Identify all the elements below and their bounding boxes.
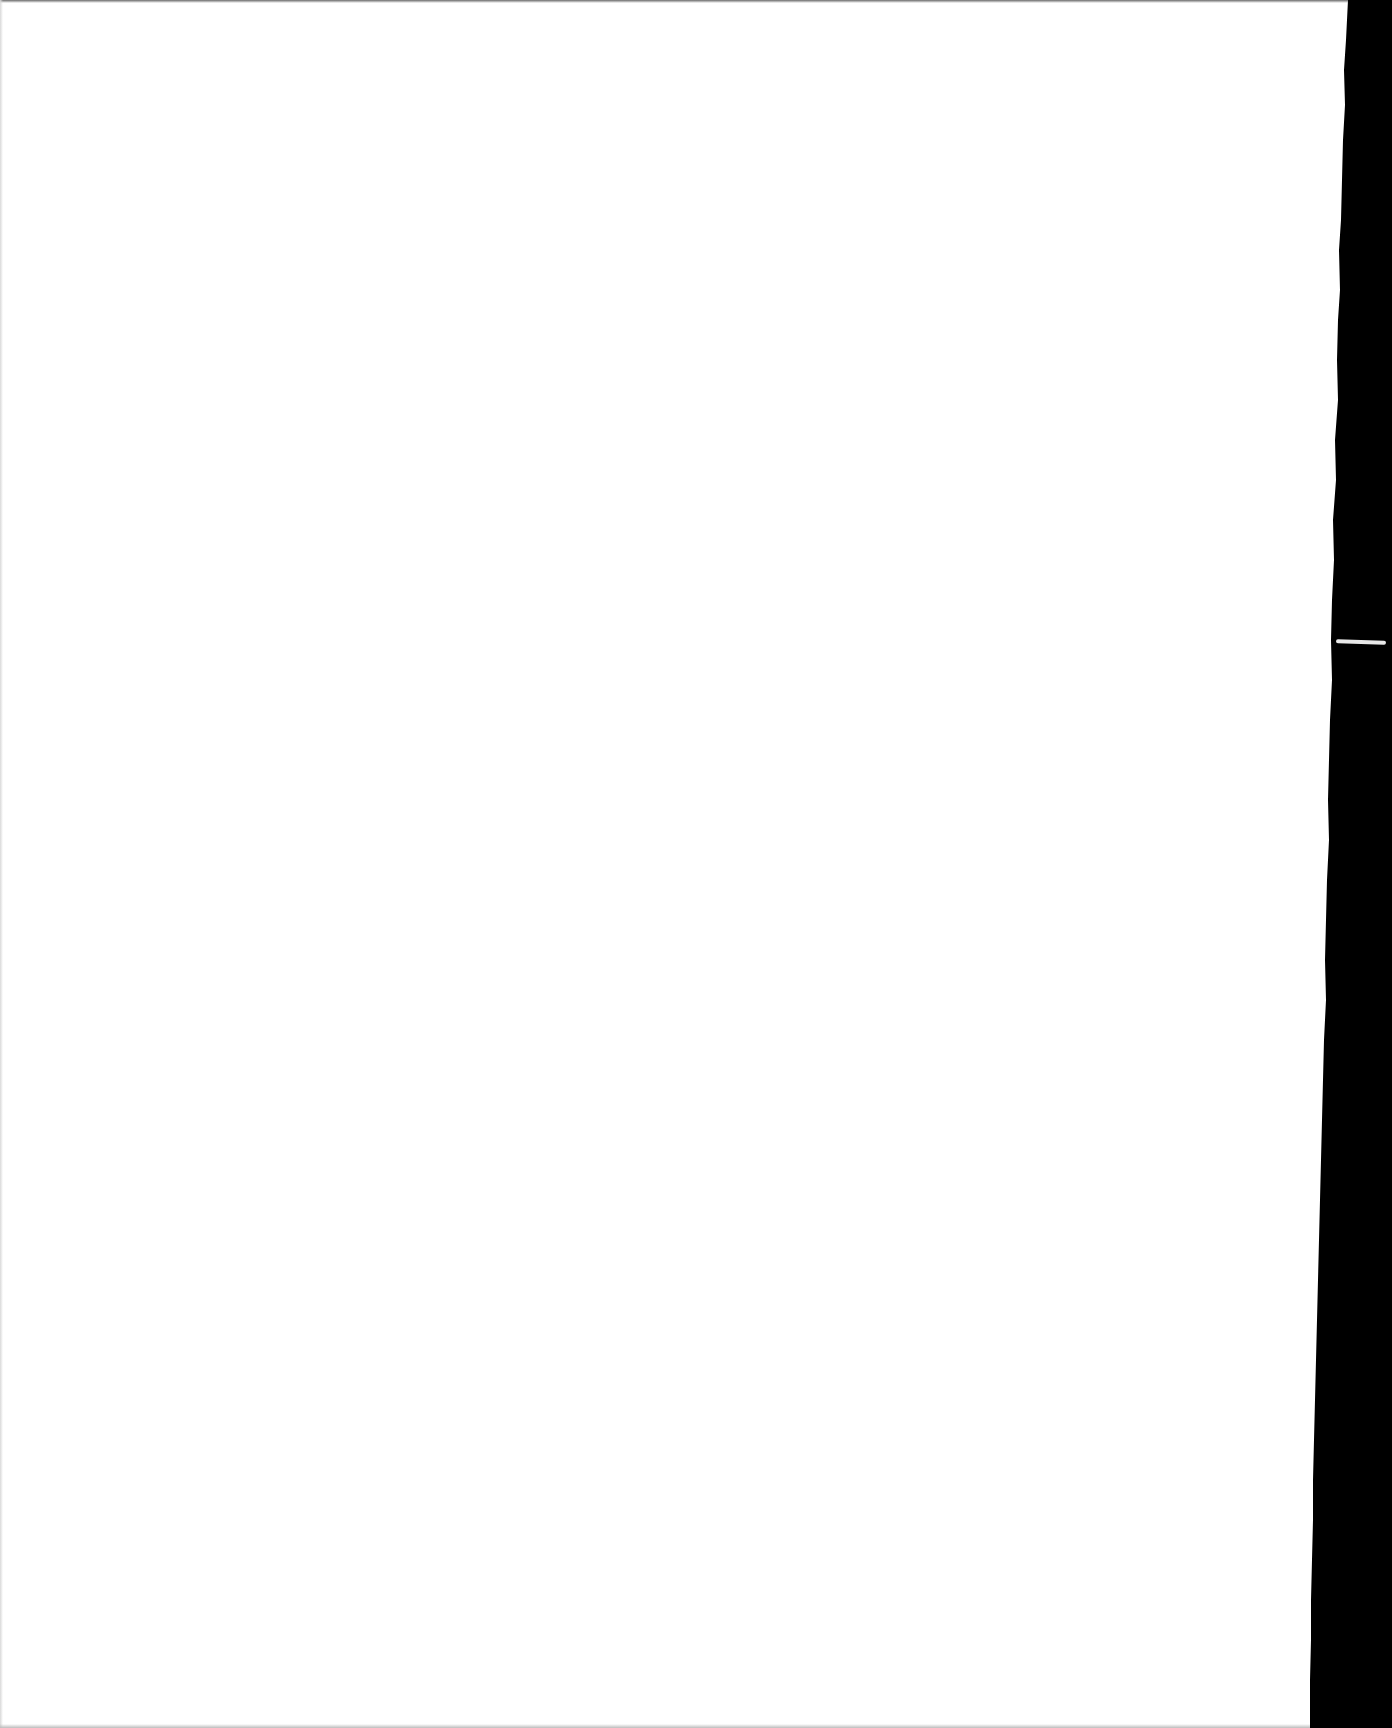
scanned-document xyxy=(0,0,1392,1728)
blank-page xyxy=(0,0,1392,1728)
page-content xyxy=(60,60,1260,1660)
torn-edge-fragment xyxy=(1336,639,1386,645)
page-edge-top xyxy=(0,0,1348,3)
page-edge-bottom xyxy=(0,1724,1312,1728)
page-edge-left xyxy=(0,0,3,1728)
